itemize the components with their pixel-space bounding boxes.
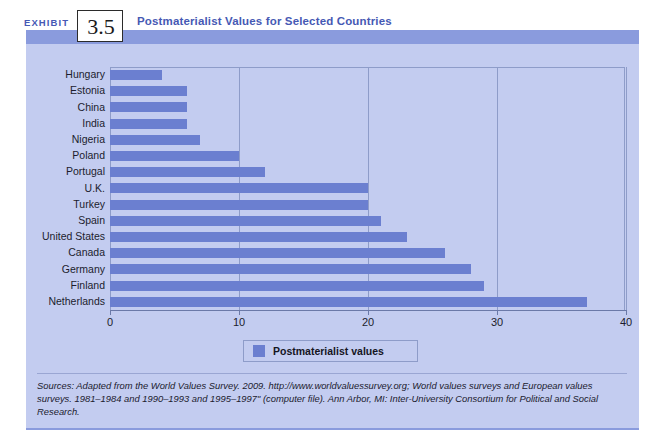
category-label: Portugal bbox=[66, 165, 105, 177]
category-label: United States bbox=[42, 230, 105, 242]
exhibit-title: Postmaterialist Values for Selected Coun… bbox=[137, 15, 392, 27]
gridline-40 bbox=[626, 67, 627, 310]
bar bbox=[110, 102, 187, 112]
x-tick-label-0: 0 bbox=[107, 316, 113, 328]
bar-row bbox=[110, 245, 626, 261]
legend-label-postmaterialist-values: Postmaterialist values bbox=[273, 345, 384, 357]
bar bbox=[110, 281, 484, 291]
bar bbox=[110, 232, 407, 242]
bar-row bbox=[110, 116, 626, 132]
x-tick-label-40: 40 bbox=[620, 316, 632, 328]
category-label: U.K. bbox=[85, 182, 105, 194]
bar bbox=[110, 167, 265, 177]
bar bbox=[110, 248, 445, 258]
x-tick-10 bbox=[239, 310, 240, 315]
bar-row bbox=[110, 294, 626, 310]
chart-legend: Postmaterialist values bbox=[243, 340, 418, 362]
bar bbox=[110, 135, 200, 145]
x-tick-label-30: 30 bbox=[491, 316, 503, 328]
category-label: Hungary bbox=[65, 68, 105, 80]
bar-row bbox=[110, 197, 626, 213]
bar-row bbox=[110, 278, 626, 294]
category-label: China bbox=[78, 101, 105, 113]
source-note: Sources: Adapted from the World Values S… bbox=[37, 379, 629, 419]
bar bbox=[110, 297, 587, 307]
category-label: Turkey bbox=[73, 198, 105, 210]
bar bbox=[110, 200, 368, 210]
x-tick-label-10: 10 bbox=[233, 316, 245, 328]
x-tick-0 bbox=[110, 310, 111, 315]
bar-row bbox=[110, 132, 626, 148]
exhibit-label: EXHIBIT bbox=[24, 17, 69, 28]
category-label: Finland bbox=[71, 279, 105, 291]
bar bbox=[110, 216, 381, 226]
category-label: Germany bbox=[62, 263, 105, 275]
bar-row bbox=[110, 229, 626, 245]
bar bbox=[110, 151, 239, 161]
bar bbox=[110, 70, 162, 80]
x-tick-label-20: 20 bbox=[362, 316, 374, 328]
exhibit-number: 3.5 bbox=[78, 11, 124, 43]
x-tick-40 bbox=[626, 310, 627, 315]
legend-swatch-postmaterialist-values bbox=[253, 345, 265, 357]
panel-bottom-rule bbox=[26, 428, 639, 430]
source-divider bbox=[37, 373, 627, 374]
bar-row bbox=[110, 180, 626, 196]
category-label: Nigeria bbox=[72, 133, 105, 145]
bar bbox=[110, 119, 187, 129]
category-label: India bbox=[82, 117, 105, 129]
bar-row bbox=[110, 213, 626, 229]
category-label: Canada bbox=[68, 246, 105, 258]
x-tick-30 bbox=[497, 310, 498, 315]
category-label: Poland bbox=[72, 149, 105, 161]
bar-row bbox=[110, 67, 626, 83]
bar bbox=[110, 183, 368, 193]
bar-row bbox=[110, 83, 626, 99]
bar-row bbox=[110, 99, 626, 115]
bar-row bbox=[110, 164, 626, 180]
bar-row bbox=[110, 148, 626, 164]
bar bbox=[110, 86, 187, 96]
x-tick-20 bbox=[368, 310, 369, 315]
bar bbox=[110, 264, 471, 274]
category-label: Spain bbox=[78, 214, 105, 226]
category-label: Netherlands bbox=[48, 295, 105, 307]
bar-row bbox=[110, 261, 626, 277]
category-label: Estonia bbox=[70, 84, 105, 96]
exhibit-number-box: 3.5 bbox=[77, 10, 123, 42]
